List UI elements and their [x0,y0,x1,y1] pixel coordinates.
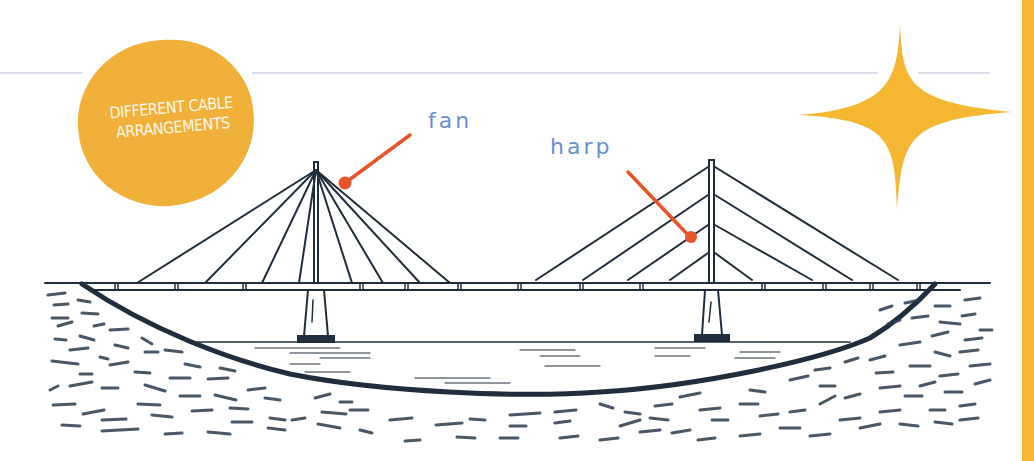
fan-label: fan [428,108,472,133]
bridge-illustration: DIFFERENT CABLE ARRANGEMENTS fan harp [0,0,1034,461]
sparkle-star-icon [798,25,1012,210]
side-accent-bar [1022,0,1034,461]
harp-label: harp [550,134,612,159]
harp-pointer [628,172,697,243]
ground-texture [48,293,992,441]
fan-pointer [339,135,411,190]
harp-tower [536,160,898,341]
